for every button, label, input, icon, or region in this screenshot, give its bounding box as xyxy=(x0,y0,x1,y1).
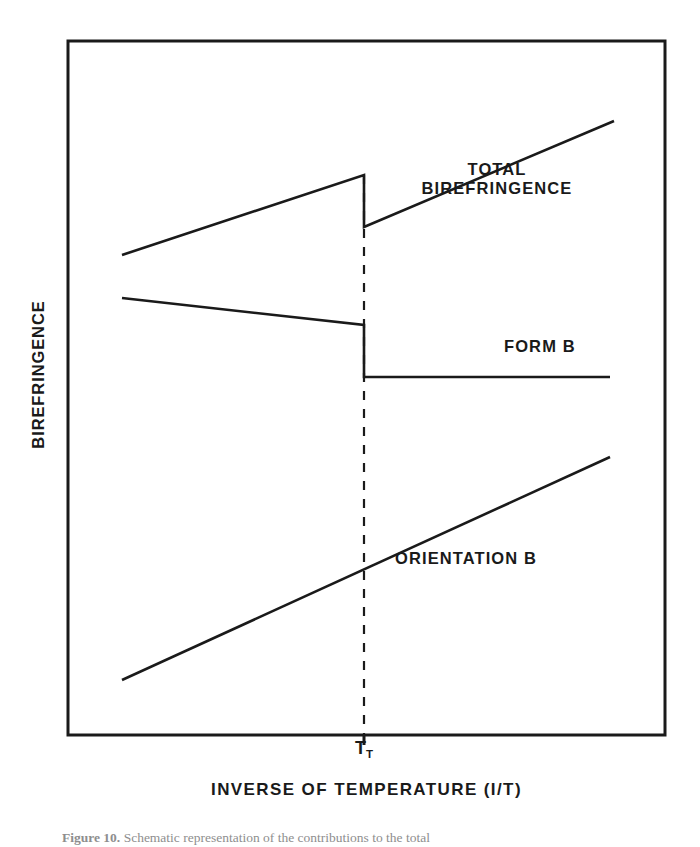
figure-caption-text: Schematic representation of the contribu… xyxy=(124,830,430,845)
transition-temperature-label: TT xyxy=(355,739,373,760)
transition-label-subscript: T xyxy=(366,748,373,760)
figure-caption: Figure 10. Schematic representation of t… xyxy=(62,830,642,847)
x-axis-title: INVERSE OF TEMPERATURE (I/T) xyxy=(68,780,665,800)
series-line-orientation-b xyxy=(122,457,610,680)
figure-caption-label: Figure 10. xyxy=(62,830,120,845)
series-label-total-line1: TOTAL xyxy=(422,160,573,179)
series-label-total-line2: BIREFRINGENCE xyxy=(422,179,573,198)
transition-label-base: T xyxy=(355,738,366,758)
series-label-orientation-b: ORIENTATION B xyxy=(395,549,537,568)
plot-frame xyxy=(68,41,665,735)
figure-root: BIREFRINGENCE TOTAL BIREFRINGENCE FORM B… xyxy=(0,0,700,847)
chart-plot-area xyxy=(0,0,700,847)
series-label-total-birefringence: TOTAL BIREFRINGENCE xyxy=(422,160,573,199)
series-label-form-b: FORM B xyxy=(504,337,576,356)
